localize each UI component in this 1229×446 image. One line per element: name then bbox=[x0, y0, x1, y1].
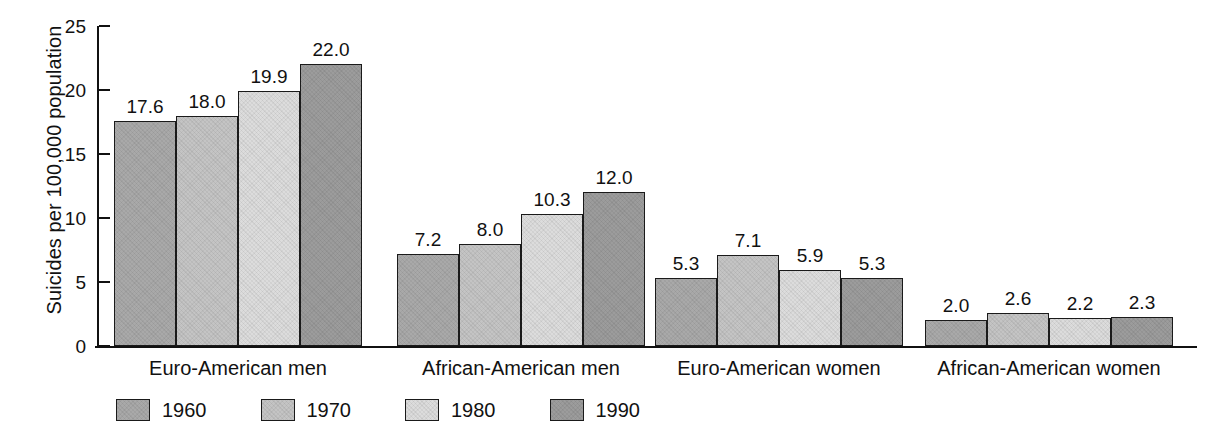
bar-value-label: 17.6 bbox=[114, 97, 176, 116]
bar-value-label: 5.3 bbox=[841, 254, 903, 273]
bar-value-label: 7.2 bbox=[397, 230, 459, 249]
bar bbox=[521, 214, 583, 346]
plot-area: 17.618.019.922.07.28.010.312.05.37.15.95… bbox=[97, 26, 1197, 348]
bar bbox=[779, 270, 841, 346]
legend-item: 1990 bbox=[550, 399, 641, 421]
y-tick-label: 10 bbox=[52, 209, 86, 228]
legend-label: 1970 bbox=[307, 400, 352, 420]
x-axis-line bbox=[95, 346, 1197, 348]
bar bbox=[655, 278, 717, 346]
bar bbox=[1111, 317, 1173, 346]
bar-value-label: 7.1 bbox=[717, 231, 779, 250]
bar-value-label: 18.0 bbox=[176, 92, 238, 111]
category-label: Euro-American men bbox=[78, 356, 398, 380]
bar bbox=[987, 313, 1049, 346]
legend-label: 1990 bbox=[596, 400, 641, 420]
bar bbox=[176, 116, 238, 346]
chart-page: Suicides per 100,000 population 25201510… bbox=[0, 0, 1229, 446]
legend-swatch bbox=[550, 399, 584, 421]
bar-value-label: 22.0 bbox=[300, 40, 362, 59]
chart-legend: 1960197019801990 bbox=[116, 396, 694, 424]
y-tick-mark bbox=[99, 89, 110, 91]
y-tick-label: 5 bbox=[52, 273, 86, 292]
legend-swatch bbox=[261, 399, 295, 421]
legend-label: 1960 bbox=[162, 400, 207, 420]
bar bbox=[459, 244, 521, 346]
bar-value-label: 10.3 bbox=[521, 190, 583, 209]
y-tick-mark bbox=[99, 281, 110, 283]
y-tick-mark bbox=[99, 345, 110, 347]
bar bbox=[300, 64, 362, 346]
bar bbox=[114, 121, 176, 346]
bar-value-label: 2.2 bbox=[1049, 294, 1111, 313]
y-tick-mark bbox=[99, 25, 110, 27]
bar bbox=[841, 278, 903, 346]
category-label: African-American women bbox=[889, 356, 1209, 380]
legend-item: 1980 bbox=[405, 399, 496, 421]
legend-item: 1960 bbox=[116, 399, 207, 421]
y-tick-label: 25 bbox=[52, 17, 86, 36]
y-tick-mark bbox=[99, 217, 110, 219]
bar bbox=[1049, 318, 1111, 346]
bar-value-label: 5.3 bbox=[655, 254, 717, 273]
legend-label: 1980 bbox=[451, 400, 496, 420]
bar bbox=[925, 320, 987, 346]
legend-swatch bbox=[116, 399, 150, 421]
bar-value-label: 2.3 bbox=[1111, 293, 1173, 312]
y-tick-mark bbox=[99, 153, 110, 155]
y-tick-label: 20 bbox=[52, 81, 86, 100]
bar bbox=[583, 192, 645, 346]
y-tick-label: 15 bbox=[52, 145, 86, 164]
bar-value-label: 2.6 bbox=[987, 289, 1049, 308]
y-tick-label: 0 bbox=[52, 337, 86, 356]
bar-value-label: 2.0 bbox=[925, 296, 987, 315]
legend-item: 1970 bbox=[261, 399, 352, 421]
legend-swatch bbox=[405, 399, 439, 421]
bar-value-label: 5.9 bbox=[779, 246, 841, 265]
y-axis-tick-labels: 2520151050 bbox=[52, 26, 86, 348]
bar-value-label: 8.0 bbox=[459, 220, 521, 239]
bar bbox=[717, 255, 779, 346]
bar bbox=[397, 254, 459, 346]
bar-value-label: 19.9 bbox=[238, 67, 300, 86]
y-axis-line bbox=[97, 26, 99, 348]
bar bbox=[238, 91, 300, 346]
bar-value-label: 12.0 bbox=[583, 168, 645, 187]
